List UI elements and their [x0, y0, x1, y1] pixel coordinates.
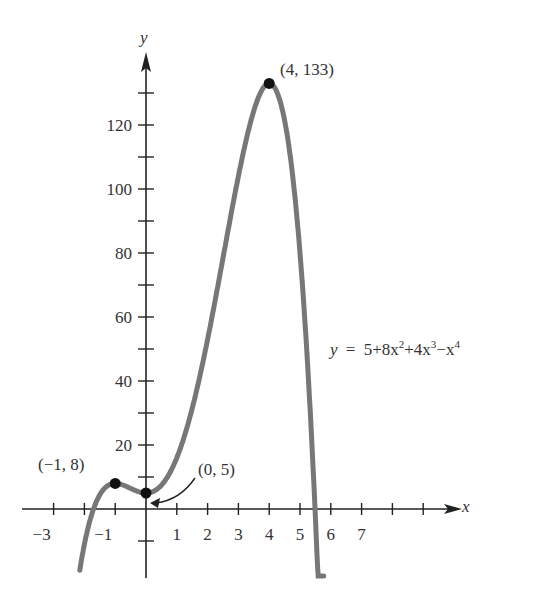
x-tick-label: −3: [33, 525, 51, 544]
x-tick-label: 1: [173, 525, 182, 544]
annotation-intercept: (0, 5): [198, 460, 235, 480]
x-tick-label: 2: [203, 525, 212, 544]
y-tick-label: 40: [115, 372, 132, 391]
eq-rhs-a: 5+8x: [364, 340, 399, 359]
x-tick-label: 3: [234, 525, 243, 544]
y-axis-label: y: [140, 28, 148, 48]
x-tick-label: 7: [357, 525, 366, 544]
y-tick-label: 80: [115, 244, 132, 263]
equation-label: y = 5+8x2+4x3−x4: [330, 338, 460, 360]
y-tick-label: 20: [115, 436, 132, 455]
annotation-max: (4, 133): [280, 60, 334, 80]
eq-sign: =: [346, 340, 356, 359]
data-point: [110, 478, 121, 489]
y-tick-label: 120: [107, 116, 133, 135]
x-tick-label: 6: [327, 525, 336, 544]
plot-area: −3−1123456720406080100120: [0, 0, 537, 608]
annotation-local-max: (−1, 8): [38, 455, 84, 475]
x-tick-label: 5: [296, 525, 305, 544]
arrowhead-icon: [150, 498, 160, 508]
x-axis-label: x: [462, 497, 470, 517]
data-point: [264, 78, 275, 89]
eq-lhs: y: [330, 340, 338, 359]
x-tick-label: −1: [94, 525, 112, 544]
y-tick-label: 60: [115, 308, 132, 327]
function-curve: [80, 83, 324, 576]
eq-rhs-b: +4x: [404, 340, 431, 359]
eq-exp4: 4: [454, 338, 460, 350]
data-point: [141, 488, 152, 499]
eq-rhs-c: −x: [436, 340, 454, 359]
x-tick-label: 4: [265, 525, 274, 544]
y-tick-label: 100: [107, 180, 133, 199]
